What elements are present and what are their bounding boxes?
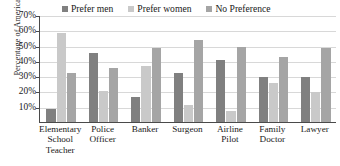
bar-group [259,16,289,123]
legend-label: Prefer men [71,4,113,14]
bar [174,73,183,123]
bar-group [174,16,204,123]
bar [301,77,310,123]
bar [311,92,320,123]
bar-group [301,16,331,123]
plot-area [39,16,336,123]
y-axis-tick-label: 30% [9,72,36,81]
bar [216,60,225,123]
bar [141,66,150,123]
bar-group [131,16,161,123]
grouped-bar-chart: Percentage of Americans 70%60%50%40%30%2… [0,0,340,166]
legend-item: Prefer men [62,4,113,14]
bars-layer [40,16,336,123]
bar [269,83,278,123]
legend-item: Prefer women [128,4,191,14]
legend-swatch-icon [128,6,134,12]
legend-swatch-icon [206,6,212,12]
bar [67,73,76,123]
bar-group [46,16,76,123]
y-axis-tick-label: 10% [9,103,36,112]
bar [99,91,108,123]
y-axis-tick-label: 20% [9,88,36,97]
y-axis-tick-label: 40% [9,57,36,66]
y-axis-tick-label: 70% [9,11,36,20]
bar [259,77,268,123]
x-axis-line [39,122,336,123]
x-axis-category-label: Lawyer [287,124,340,134]
bar [279,57,288,123]
bar [109,68,118,123]
legend-swatch-icon [62,6,68,12]
bar [152,48,161,123]
bar [46,109,55,123]
bar [194,40,203,123]
bar-group [89,16,119,123]
bar [131,97,140,123]
bar [89,53,98,123]
chart-legend: Prefer menPrefer womenNo Preference [62,4,271,14]
bar [57,33,66,123]
y-axis-tick-label: 50% [9,42,36,51]
y-axis-tick-label: 60% [9,27,36,36]
bar [184,105,193,123]
legend-label: Prefer women [137,4,191,14]
y-axis-tick-labels: 70%60%50%40%30%20%10% [9,16,36,123]
legend-item: No Preference [206,4,270,14]
bar [321,48,330,123]
bar-group [216,16,246,123]
bar [237,47,246,123]
legend-label: No Preference [215,4,270,14]
x-axis-category-labels: ElementarySchoolTeacherPoliceOfficerBank… [39,124,336,166]
